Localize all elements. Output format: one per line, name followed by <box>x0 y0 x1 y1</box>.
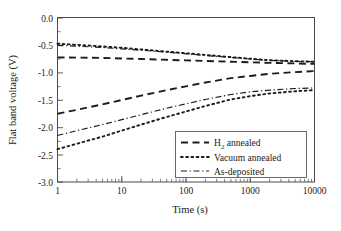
figure-container: 0.0 -0.5 -1.0 -1.5 -2.0 -2.5 -3.0 Flat b… <box>0 0 341 231</box>
x-tick-label-2: 100 <box>179 186 194 196</box>
x-axis-title: Time (s) <box>172 204 208 216</box>
y-tick-label-2: -1.0 <box>38 68 53 78</box>
y-tick-label-1: -0.5 <box>38 41 53 51</box>
x-tick-label-0: 1 <box>55 186 60 196</box>
y-tick-label-3: -1.5 <box>38 96 53 106</box>
x-axis-labels: 1 10 100 1000 10000 <box>55 186 327 196</box>
x-tick-label-1: 10 <box>117 186 127 196</box>
y-axis-title: Flat band voltage (V) <box>7 54 19 145</box>
x-tick-label-3: 1000 <box>241 186 260 196</box>
legend-label-2: As-deposited <box>214 167 264 177</box>
y-tick-label-0: 0.0 <box>41 14 53 24</box>
y-axis-ticks <box>58 18 64 182</box>
y-axis-labels: 0.0 -0.5 -1.0 -1.5 -2.0 -2.5 -3.0 <box>38 14 53 188</box>
y-tick-label-5: -2.5 <box>38 151 53 161</box>
series-2-dashdot <box>58 45 315 61</box>
series-5-dashdot <box>58 88 315 136</box>
flat-band-voltage-chart: 0.0 -0.5 -1.0 -1.5 -2.0 -2.5 -3.0 Flat b… <box>0 0 341 231</box>
legend-label-1: Vacuum annealed <box>214 153 282 163</box>
legend: H2 annealed Vacuum annealed As-deposited <box>176 132 307 178</box>
y-tick-label-6: -3.0 <box>38 178 53 188</box>
legend-label-0-rest: annealed <box>224 138 260 148</box>
y-tick-label-4: -2.0 <box>38 123 53 133</box>
x-tick-label-4: 10000 <box>303 186 327 196</box>
series-1-dotted <box>58 44 315 62</box>
